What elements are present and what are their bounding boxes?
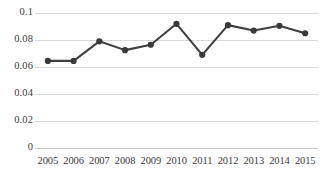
x-axis: 2005 2006 2007 2008 2009 2010 2011 2012 … [35, 154, 318, 176]
y-tick-label: 0 [2, 142, 33, 153]
data-point [225, 22, 231, 28]
data-point [199, 52, 205, 58]
x-tick-label: 2006 [61, 154, 87, 176]
x-tick-label: 2012 [215, 154, 241, 176]
data-point [251, 27, 257, 33]
y-tick-label: 0.04 [2, 88, 33, 99]
x-tick-label: 2015 [292, 154, 318, 176]
data-point [70, 58, 76, 64]
data-point [96, 38, 102, 44]
x-tick-label: 2009 [138, 154, 164, 176]
line-chart: 0.1 0.08 0.06 0.04 0.02 0 2005 2006 2007… [0, 0, 325, 179]
x-tick-label: 2005 [35, 154, 61, 176]
y-tick-label: 0.1 [2, 7, 33, 18]
series-line [48, 24, 305, 61]
y-tick-label: 0.06 [2, 61, 33, 72]
y-axis: 0.1 0.08 0.06 0.04 0.02 0 [0, 0, 33, 179]
plot-area [35, 0, 318, 179]
x-tick-label: 2010 [164, 154, 190, 176]
data-point [173, 21, 179, 27]
data-point [302, 30, 308, 36]
x-tick-label: 2007 [86, 154, 112, 176]
y-tick-label: 0.02 [2, 115, 33, 126]
x-tick-label: 2013 [241, 154, 267, 176]
data-point [122, 47, 128, 53]
x-tick-label: 2014 [267, 154, 293, 176]
data-point [276, 23, 282, 29]
data-series [35, 0, 318, 179]
y-tick-label: 0.08 [2, 34, 33, 45]
data-point [45, 58, 51, 64]
x-tick-label: 2008 [112, 154, 138, 176]
data-point [148, 42, 154, 48]
x-tick-label: 2011 [189, 154, 215, 176]
